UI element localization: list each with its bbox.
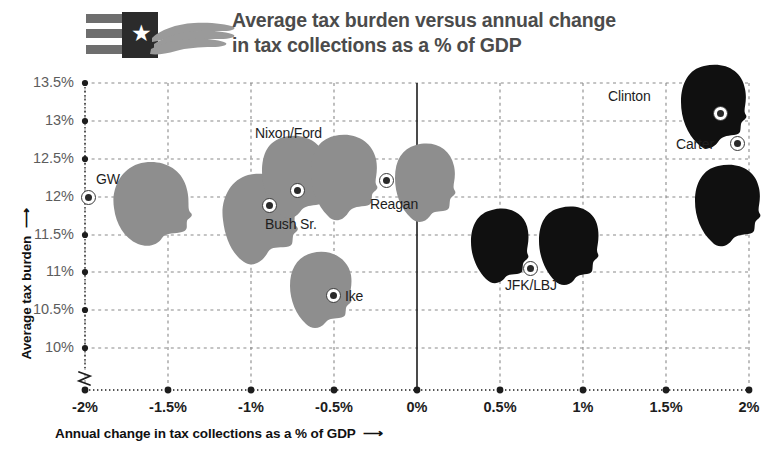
marker-dot [330, 292, 337, 299]
point-label-carter: Carter [676, 136, 714, 152]
xtick-label: 0.5% [469, 399, 531, 415]
xtick-label: 2% [718, 399, 780, 415]
data-point-nixon-ford[interactable] [290, 183, 305, 198]
ytick-label: 13% [12, 112, 74, 128]
silhouette-lbj [536, 205, 602, 287]
data-point-ike[interactable] [326, 288, 341, 303]
marker-dot [85, 194, 92, 201]
marker-dot [294, 187, 301, 194]
y-axis-title: Average tax burden ⟶ [18, 184, 34, 384]
marker-dot [717, 110, 724, 117]
data-point-clinton[interactable] [713, 106, 728, 121]
xtick-label: -1% [220, 399, 282, 415]
ytick-label: 13.5% [12, 74, 74, 90]
point-label-nixon-ford: Nixon/Ford [255, 125, 322, 141]
marker-dot [383, 177, 390, 184]
ytick-label: 12.5% [12, 150, 74, 166]
xtick-label: 1% [552, 399, 614, 415]
point-label-clinton: Clinton [608, 88, 651, 104]
x-axis-title: Annual change in tax collections as a % … [55, 425, 615, 441]
arrow-up-icon: ⟶ [19, 209, 34, 233]
silhouette-ike [286, 250, 354, 330]
point-label-jfk-lbj: JFK/LBJ [505, 277, 557, 293]
point-label-bush-sr: Bush Sr. [265, 216, 317, 232]
point-label-reagan: Reagan [370, 196, 418, 212]
xtick-label: 1.5% [635, 399, 697, 415]
data-point-jfk-lbj[interactable] [523, 261, 538, 276]
silhouette-carter [690, 163, 764, 249]
data-point-gw[interactable] [81, 190, 96, 205]
point-label-ike: Ike [345, 288, 363, 304]
xtick-label: -1.5% [137, 399, 199, 415]
plot-area: GW Bush Sr. Nixon/Ford Ike Reagan JFK/LB… [0, 0, 780, 460]
x-axis-title-text: Annual change in tax collections as a % … [55, 426, 355, 441]
chart-page: ★ Average tax burden versus annual chang… [0, 0, 780, 460]
silhouette-ford [306, 133, 380, 223]
xtick-label: 0% [386, 399, 448, 415]
xtick-label: -2% [54, 399, 116, 415]
marker-dot [266, 202, 273, 209]
marker-dot [734, 140, 741, 147]
marker-dot [527, 265, 534, 272]
data-point-reagan[interactable] [379, 173, 394, 188]
arrow-right-icon: ⟶ [359, 426, 383, 441]
point-label-gw: GW [96, 171, 120, 187]
data-point-bush-sr[interactable] [262, 198, 277, 213]
y-axis-title-text: Average tax burden [19, 236, 34, 360]
xtick-label: -0.5% [303, 399, 365, 415]
silhouette-gw [108, 160, 194, 248]
data-point-carter[interactable] [730, 136, 745, 151]
